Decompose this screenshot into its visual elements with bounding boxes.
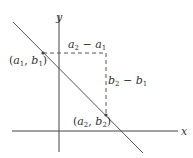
y-axis-label: y	[55, 11, 63, 24]
diagram-canvas: x y (a1, b1) (a2, b2) a2 − a1 b2 − b1	[0, 0, 193, 158]
point-1-label: (a1, b1)	[9, 54, 47, 68]
x-axis-label: x	[181, 125, 188, 138]
sloped-line	[13, 22, 143, 153]
run-label: a2 − a1	[68, 38, 106, 52]
point-2-label: (a2, b2)	[73, 115, 111, 129]
rise-label: b2 − b1	[108, 74, 147, 88]
slope-diagram: x y (a1, b1) (a2, b2) a2 − a1 b2 − b1	[0, 0, 193, 158]
